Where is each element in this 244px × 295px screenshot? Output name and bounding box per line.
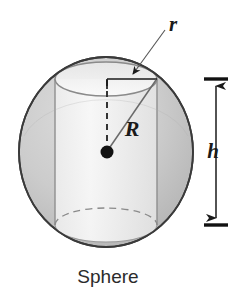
- label-height: h: [207, 139, 219, 163]
- label-radius-large: R: [124, 116, 140, 141]
- figure-container: r R h Sphere: [0, 0, 244, 295]
- sphere-center-point: [101, 146, 114, 159]
- label-radius-small: r: [169, 12, 178, 36]
- figure-caption: Sphere: [77, 266, 138, 287]
- cylinder-barrel: [55, 79, 157, 242]
- radius-leader-line: [133, 30, 165, 74]
- sphere-with-inscribed-cylinder-diagram: r R h Sphere: [0, 0, 244, 295]
